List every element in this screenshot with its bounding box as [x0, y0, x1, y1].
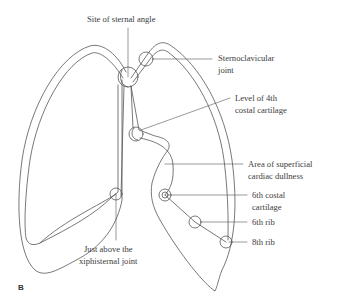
label-text: xiphisternal joint — [79, 255, 137, 267]
label-text: costal cartilage — [235, 104, 287, 116]
left-pleura-outline — [131, 43, 235, 291]
label-text: cartilage — [252, 201, 285, 213]
label-text: cardiac dullness — [248, 170, 312, 182]
label-xiphisternal-joint: Just above the xiphisternal joint — [79, 243, 137, 267]
sternoclavicular-joint-circle — [139, 52, 153, 66]
label-text: Area of superficial — [248, 158, 312, 170]
label-text: Just above the — [79, 243, 137, 255]
cardiac-notch — [140, 138, 173, 195]
sternum-line-left — [121, 86, 124, 196]
pleural-reflection-line — [165, 195, 226, 242]
fourth-costal-inner-arc — [132, 128, 138, 140]
leader-fourth-costal — [141, 98, 230, 130]
label-sternal-angle: Site of sternal angle — [87, 13, 156, 25]
label-eighth-rib: 8th rib — [252, 236, 275, 248]
label-text: 6th rib — [252, 216, 275, 228]
fourth-costal-cartilage-circle — [129, 127, 143, 141]
label-text: 8th rib — [252, 236, 275, 248]
left-lung-outline — [133, 50, 228, 240]
right-lung-outline — [25, 53, 123, 245]
right-pleura-outline — [19, 45, 126, 273]
right-lower-reflection-line — [40, 194, 116, 243]
label-cardiac-dullness: Area of superficial cardiac dullness — [248, 158, 312, 182]
label-text: Sternoclavicular — [218, 52, 274, 64]
label-sixth-rib: 6th rib — [252, 216, 275, 228]
panel-letter: B — [18, 283, 24, 292]
lung-surface-markings-diagram: Site of sternal angle Sternoclavicular j… — [0, 0, 338, 304]
label-text: joint — [218, 64, 274, 76]
label-sixth-costal-cartilage: 6th costal cartilage — [252, 189, 285, 213]
label-text: Site of sternal angle — [87, 13, 156, 25]
label-text: 6th costal — [252, 189, 285, 201]
diagram-drawing — [0, 0, 338, 304]
label-text: Level of 4th — [235, 92, 287, 104]
label-fourth-costal-cartilage: Level of 4th costal cartilage — [235, 92, 287, 116]
label-sternoclavicular-joint: Sternoclavicular joint — [218, 52, 274, 76]
